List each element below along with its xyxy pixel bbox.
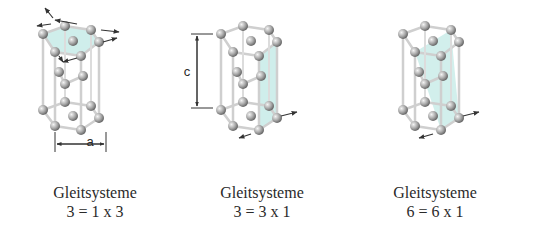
caption-basal: Gleitsysteme 3 = 1 x 3 [30,183,160,221]
caption-formula: 3 = 3 x 1 [197,202,327,221]
caption-pyramidal: Gleitsysteme 6 = 6 x 1 [370,183,500,221]
panel-prismatic [191,21,297,138]
dimension-label-c: c [180,62,194,81]
panel-pyramidal [398,21,479,138]
caption-formula: 6 = 6 x 1 [370,202,500,221]
caption-title: Gleitsysteme [370,183,500,202]
caption-title: Gleitsysteme [197,183,327,202]
caption-formula: 3 = 1 x 3 [30,202,160,221]
dimension-label-a: a [80,132,100,151]
dimension-c [191,34,213,108]
caption-prismatic: Gleitsysteme 3 = 3 x 1 [197,183,327,221]
caption-title: Gleitsysteme [30,183,160,202]
panel-basal [37,8,119,152]
